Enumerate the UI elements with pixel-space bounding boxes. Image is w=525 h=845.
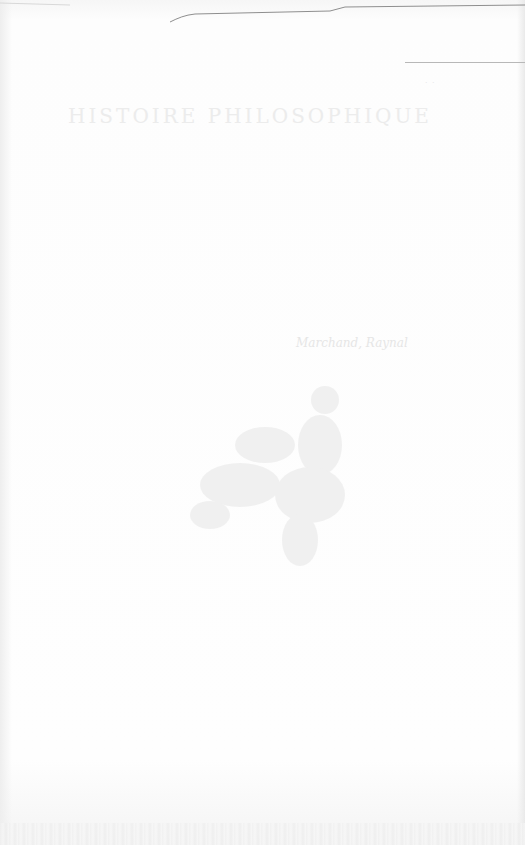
engraving-vignette-icon bbox=[180, 375, 380, 575]
page-left-edge-shadow bbox=[0, 0, 12, 845]
page-bottom-edge bbox=[0, 823, 525, 845]
page-right-edge-shadow bbox=[517, 0, 525, 845]
horizontal-rule bbox=[405, 62, 525, 63]
page-title: HISTOIRE PHILOSOPHIQUE bbox=[68, 104, 388, 128]
scanned-page: · · HISTOIRE PHILOSOPHIQUE Marchand, Ray… bbox=[0, 0, 525, 845]
page-top-fold-line bbox=[0, 0, 525, 30]
small-mark: · · bbox=[425, 78, 436, 87]
handwritten-signature: Marchand, Raynal bbox=[296, 336, 408, 350]
